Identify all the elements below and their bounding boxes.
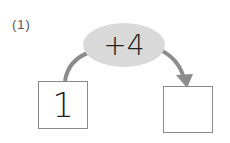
- start-value: 1: [52, 88, 74, 122]
- answer-box[interactable]: [163, 86, 213, 133]
- operation-label: +4: [84, 24, 164, 66]
- start-value-box: 1: [38, 81, 88, 129]
